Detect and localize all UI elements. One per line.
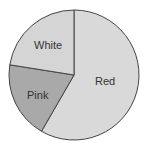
- label-white: White: [34, 39, 62, 51]
- label-pink: Pink: [27, 89, 49, 101]
- label-red: Red: [95, 75, 115, 87]
- pie-chart: Red Pink White: [0, 0, 145, 152]
